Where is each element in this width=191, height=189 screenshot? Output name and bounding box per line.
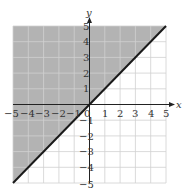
y-tick: 3 bbox=[83, 52, 89, 63]
x-tick: 4 bbox=[148, 108, 154, 119]
y-tick: −2 bbox=[79, 131, 94, 142]
y-tick: −4 bbox=[79, 162, 94, 173]
y-tick: −5 bbox=[79, 179, 94, 189]
x-tick: 2 bbox=[117, 108, 123, 119]
y-axis-label: y bbox=[85, 7, 92, 18]
y-tick: 1 bbox=[83, 83, 89, 94]
y-tick: 2 bbox=[83, 68, 89, 79]
y-tick: −1 bbox=[79, 115, 94, 126]
x-tick: −4 bbox=[20, 108, 35, 119]
x-tick: 1 bbox=[102, 108, 108, 119]
inequality-graph: x y −5 −4 −3 −2 −1 0 1 2 3 4 5 5 4 3 2 1… bbox=[0, 0, 191, 189]
y-tick: 5 bbox=[83, 21, 89, 32]
x-tick: 5 bbox=[163, 108, 169, 119]
x-tick: −2 bbox=[51, 108, 66, 119]
x-tick: −3 bbox=[35, 108, 50, 119]
x-axis-label: x bbox=[176, 99, 182, 110]
x-tick: 3 bbox=[132, 108, 138, 119]
x-axis-arrow-icon bbox=[169, 102, 175, 107]
y-tick: 4 bbox=[83, 36, 89, 47]
y-tick: −3 bbox=[79, 146, 94, 157]
x-tick: −5 bbox=[4, 108, 19, 119]
